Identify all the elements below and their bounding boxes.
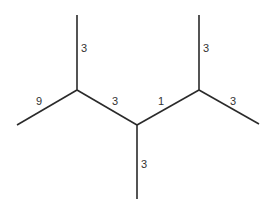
edge-b-r_end xyxy=(199,90,259,124)
edge-labels: 3 9 3 1 3 3 3 xyxy=(36,42,236,170)
edge-label-c-b: 1 xyxy=(158,95,164,107)
edge-l_end-a xyxy=(17,90,77,125)
edge-label-left: 9 xyxy=(36,95,42,107)
edge-label-a-top: 3 xyxy=(81,42,87,54)
branched-tree-diagram: 3 9 3 1 3 3 3 xyxy=(0,0,269,212)
edge-label-a-c: 3 xyxy=(112,95,118,107)
edges xyxy=(17,15,259,199)
edge-label-right: 3 xyxy=(230,95,236,107)
edge-label-b-top: 3 xyxy=(203,42,209,54)
edge-c-b xyxy=(137,90,199,125)
edge-label-c-bottom: 3 xyxy=(141,158,147,170)
edge-a-c xyxy=(77,90,137,125)
